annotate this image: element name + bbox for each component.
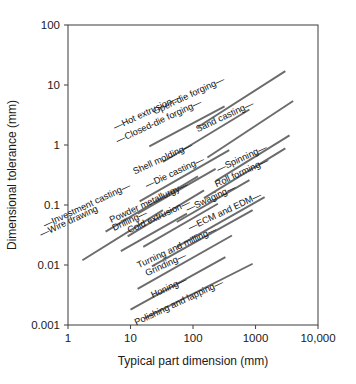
tolerance-vs-dimension-chart: 110100100010,000 1001010.10.010.001 —Hot… [0, 0, 356, 384]
y-tick-label: 1 [54, 139, 60, 151]
x-axis-title: Typical part dimension (mm) [118, 354, 269, 368]
y-tick-label: 10 [47, 79, 60, 91]
y-tick-label: 0.001 [31, 319, 60, 331]
chart-canvas: 110100100010,000 1001010.10.010.001 —Hot… [0, 0, 356, 384]
x-tick-label: 1 [65, 332, 71, 344]
x-tick-label: 100 [183, 332, 202, 344]
x-tick-label: 1000 [243, 332, 269, 344]
x-tick-label: 10 [124, 332, 137, 344]
y-axis-title: Dimensional tolerance (mm) [5, 100, 19, 250]
x-tick-label: 10,000 [300, 332, 335, 344]
y-tick-label: 0.1 [44, 199, 60, 211]
y-tick-label: 0.01 [38, 259, 60, 271]
y-tick-label: 100 [41, 19, 60, 31]
